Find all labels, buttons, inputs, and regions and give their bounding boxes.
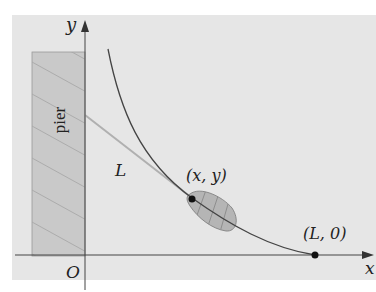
- origin-label: O: [66, 262, 80, 282]
- boat-point-label: (x, y): [186, 166, 227, 185]
- pier-label: pier: [50, 90, 70, 150]
- boat-point-text: (x, y): [186, 166, 227, 185]
- y-axis-label: y: [66, 14, 76, 35]
- tractrix-diagram: y x O pier L (x, y) (L, 0): [0, 0, 376, 292]
- pier: [32, 30, 90, 286]
- boat-point-marker: [189, 196, 196, 203]
- rope-length-label: L: [115, 160, 126, 180]
- end-point-label: (L, 0): [303, 224, 346, 243]
- end-point-text: (L, 0): [303, 224, 346, 243]
- end-point-marker: [312, 252, 319, 259]
- x-axis-label: x: [365, 258, 375, 278]
